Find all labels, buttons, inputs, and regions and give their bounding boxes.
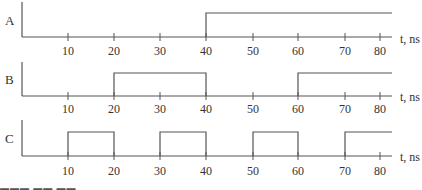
svg-text:20: 20 — [108, 44, 120, 58]
waveform-c-pulse-3 — [253, 132, 298, 156]
tick-labels-b: 10 20 30 40 50 60 70 80 — [62, 102, 386, 116]
x-axis-unit-c: t, ns — [400, 150, 420, 164]
svg-text:10: 10 — [62, 102, 74, 116]
signal-label-b: B — [5, 72, 14, 87]
x-axis-unit-a: t, ns — [400, 32, 420, 46]
svg-text:80: 80 — [374, 44, 386, 58]
svg-text:20: 20 — [108, 102, 120, 116]
svg-text:30: 30 — [154, 44, 166, 58]
waveform-c-pulse-2 — [160, 132, 206, 156]
signal-label-a: A — [5, 13, 15, 28]
svg-text:50: 50 — [247, 44, 259, 58]
svg-text:60: 60 — [292, 44, 304, 58]
tick-labels-a: 10 20 30 40 50 60 70 80 — [62, 44, 386, 58]
svg-text:10: 10 — [62, 164, 74, 178]
svg-text:80: 80 — [374, 102, 386, 116]
svg-text:40: 40 — [200, 164, 212, 178]
svg-text:60: 60 — [292, 102, 304, 116]
x-axis-unit-b: t, ns — [400, 90, 420, 104]
waveform-a — [206, 13, 392, 37]
tick-labels-c: 10 20 30 40 50 60 70 80 — [62, 164, 386, 178]
panel-a: A 10 20 30 40 50 60 70 80 t, ns — [5, 2, 420, 58]
timing-diagram: A 10 20 30 40 50 60 70 80 t, ns B — [0, 0, 422, 190]
svg-text:80: 80 — [374, 164, 386, 178]
panel-c: C 10 20 30 40 50 60 70 80 t, ns — [5, 120, 420, 178]
svg-text:10: 10 — [62, 44, 74, 58]
panel-b: B 10 20 30 40 50 60 70 80 t, ns — [5, 62, 420, 116]
waveform-c-pulse-1 — [68, 132, 114, 156]
cropped-caption-text: ▬▬▬ ▬▬ ▬▬ — [0, 183, 77, 190]
svg-text:70: 70 — [339, 164, 351, 178]
svg-text:50: 50 — [247, 102, 259, 116]
svg-text:60: 60 — [292, 164, 304, 178]
svg-text:40: 40 — [200, 44, 212, 58]
svg-text:20: 20 — [108, 164, 120, 178]
svg-text:70: 70 — [339, 102, 351, 116]
svg-text:70: 70 — [339, 44, 351, 58]
svg-text:30: 30 — [154, 164, 166, 178]
svg-text:40: 40 — [200, 102, 212, 116]
waveform-c-pulse-4 — [345, 132, 392, 156]
svg-text:30: 30 — [154, 102, 166, 116]
svg-text:50: 50 — [247, 164, 259, 178]
signal-label-c: C — [5, 131, 14, 146]
